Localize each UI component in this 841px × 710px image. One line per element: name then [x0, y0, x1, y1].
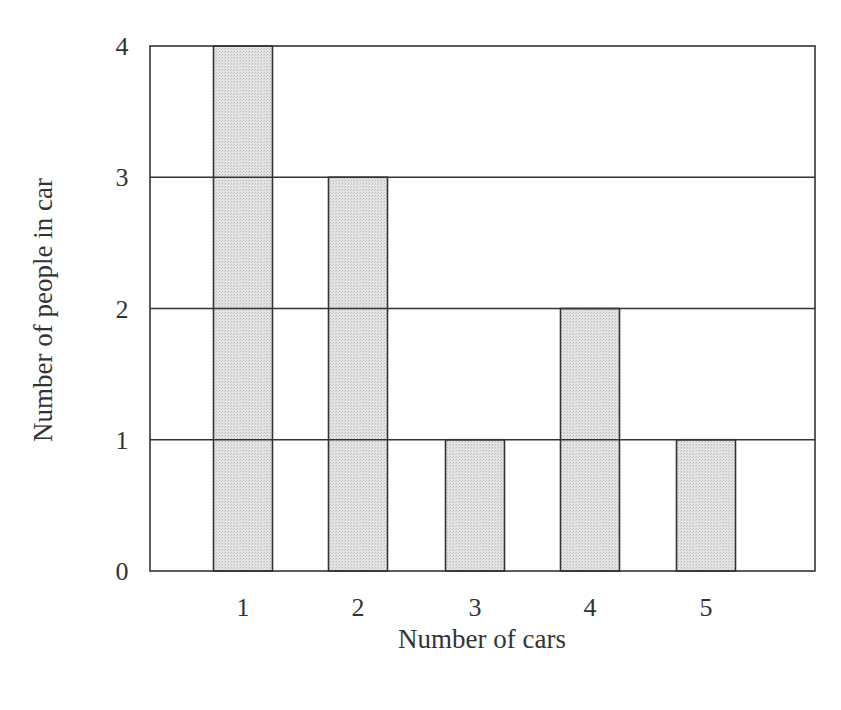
x-tick-3: 3 — [469, 593, 482, 622]
x-axis-title: Number of cars — [398, 624, 566, 654]
y-tick-0: 0 — [116, 557, 129, 586]
x-tick-4: 4 — [584, 593, 597, 622]
x-tick-2: 2 — [352, 593, 365, 622]
y-tick-labels: 01234 — [116, 32, 129, 586]
y-tick-1: 1 — [116, 426, 129, 455]
bar-3 — [446, 440, 505, 571]
bar-5 — [677, 440, 736, 571]
bar-chart: 01234 12345 Number of cars Number of peo… — [0, 0, 841, 710]
x-tick-5: 5 — [700, 593, 713, 622]
y-axis-title: Number of people in car — [28, 178, 58, 442]
x-tick-1: 1 — [237, 593, 250, 622]
y-tick-3: 3 — [116, 163, 129, 192]
y-tick-4: 4 — [116, 32, 129, 61]
bar-2 — [329, 177, 388, 571]
x-tick-labels: 12345 — [237, 593, 713, 622]
y-tick-2: 2 — [116, 295, 129, 324]
